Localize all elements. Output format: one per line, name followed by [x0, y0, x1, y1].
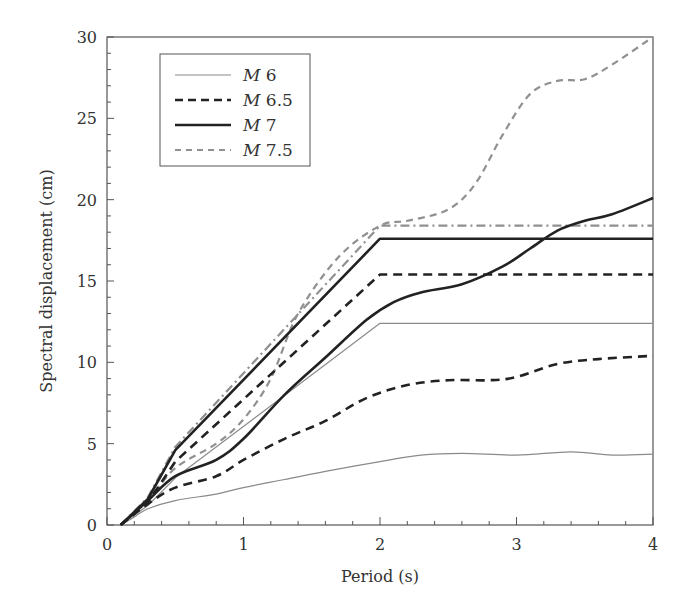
y-tick-label: 20: [77, 191, 97, 210]
y-tick-label: 5: [87, 435, 97, 454]
x-tick-label: 1: [238, 535, 248, 554]
legend-label: M 6: [242, 65, 277, 85]
series-line-m6-5-design: [121, 275, 653, 526]
x-tick-label: 0: [102, 535, 112, 554]
y-tick-label: 30: [77, 28, 97, 47]
legend-label: M 6.5: [242, 90, 293, 110]
legend-label: M 7.5: [242, 140, 293, 160]
series-line-m6-mean: [121, 452, 653, 525]
series-line-m6-5-mean: [121, 356, 653, 525]
x-axis-label: Period (s): [341, 567, 419, 586]
y-tick-label: 25: [77, 109, 97, 128]
y-tick-label: 10: [77, 353, 97, 372]
series-line-m7-mean: [121, 198, 653, 525]
x-tick-label: 4: [648, 535, 658, 554]
spectral-displacement-chart: 051015202530 01234 Period (s) Spectral d…: [0, 0, 688, 616]
x-tick-label: 3: [511, 535, 521, 554]
y-tick-label: 15: [77, 272, 97, 291]
y-axis-label: Spectral displacement (cm): [37, 169, 56, 392]
y-tick-label: 0: [87, 516, 97, 535]
x-tick-label: 2: [375, 535, 385, 554]
y-axis-ticks: 051015202530: [77, 28, 114, 535]
legend-label: M 7: [242, 115, 277, 135]
x-axis-ticks: 01234: [102, 517, 658, 554]
legend: M 6M 6.5M 7M 7.5: [160, 54, 310, 166]
